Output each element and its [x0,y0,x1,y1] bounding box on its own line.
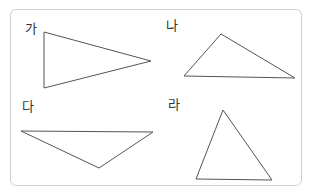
triangle-da [21,131,153,168]
triangle-ra [196,110,272,180]
triangle-ga [44,32,151,88]
triangles-canvas [0,0,310,194]
triangle-na [184,34,295,78]
